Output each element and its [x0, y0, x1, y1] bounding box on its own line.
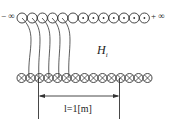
magnetic-field-lines [22, 18, 70, 78]
minus-infinity-label: − ∞ [1, 11, 15, 21]
field-symbol: H [97, 43, 106, 57]
dimension-label: l=1[m] [64, 103, 92, 114]
plus-infinity-label: + ∞ [151, 11, 165, 21]
field-subscript: i [106, 51, 108, 59]
field-label: Hi [97, 43, 108, 59]
top-conductor-dots [82, 17, 145, 19]
